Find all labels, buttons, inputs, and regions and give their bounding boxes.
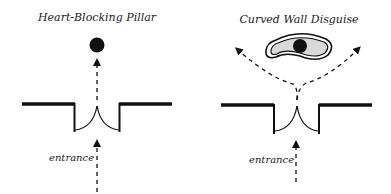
entrance-label: entrance xyxy=(49,152,94,163)
pillar-icon xyxy=(293,39,307,53)
door-swing-left-icon xyxy=(275,106,297,131)
panel-title: Curved Wall Disguise xyxy=(239,13,359,26)
pillar-icon xyxy=(90,38,105,53)
door-swing-right-icon xyxy=(297,106,318,131)
panel-title: Heart-Blocking Pillar xyxy=(37,11,157,24)
door-swing-right-icon xyxy=(97,106,119,130)
door-swing-left-icon xyxy=(75,106,97,130)
wall-with-door xyxy=(221,104,372,134)
diagram-canvas: Heart-Blocking Pillar entrance Curved Wa… xyxy=(0,0,391,194)
panel-curved-wall-disguise: Curved Wall Disguise entrance xyxy=(221,13,372,182)
entrance-label: entrance xyxy=(249,154,294,165)
path-left-arrow-icon xyxy=(238,50,297,100)
panel-heart-blocking-pillar: Heart-Blocking Pillar entrance xyxy=(22,11,172,192)
diagram-root: Heart-Blocking Pillar entrance Curved Wa… xyxy=(0,0,391,194)
wall-with-door xyxy=(22,103,172,132)
